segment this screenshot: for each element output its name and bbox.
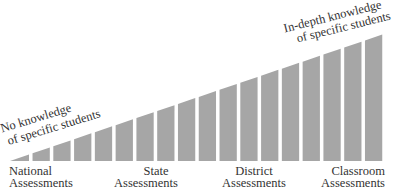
bar bbox=[33, 147, 50, 161]
bar bbox=[303, 56, 320, 161]
bar bbox=[157, 105, 174, 161]
bar bbox=[116, 119, 133, 161]
bar bbox=[261, 70, 278, 161]
category-classroom: Classroom Assessments bbox=[321, 164, 385, 189]
bar bbox=[199, 91, 216, 161]
bar bbox=[10, 155, 29, 161]
category-district-line2: Assessments bbox=[222, 176, 286, 189]
category-national: National Assessments bbox=[9, 164, 73, 189]
bar bbox=[220, 84, 237, 161]
category-district: District Assessments bbox=[222, 164, 286, 189]
category-national-line2: Assessments bbox=[9, 176, 73, 189]
bar bbox=[178, 98, 195, 161]
category-classroom-line2: Assessments bbox=[321, 176, 385, 189]
knowledge-continuum-diagram: No knowledge of specific students In-dep… bbox=[0, 0, 393, 189]
bar bbox=[95, 126, 112, 161]
bar bbox=[282, 63, 299, 161]
bar bbox=[240, 77, 257, 161]
category-state: State Assessments bbox=[114, 164, 178, 189]
bar bbox=[344, 42, 361, 161]
bar bbox=[136, 112, 153, 161]
bar bbox=[323, 49, 340, 161]
bar bbox=[74, 133, 91, 161]
bar bbox=[53, 140, 70, 161]
bars-group bbox=[10, 35, 382, 161]
category-state-line2: Assessments bbox=[114, 176, 178, 189]
bar bbox=[365, 35, 382, 161]
bar-staircase: No knowledge of specific students In-dep… bbox=[0, 0, 393, 189]
